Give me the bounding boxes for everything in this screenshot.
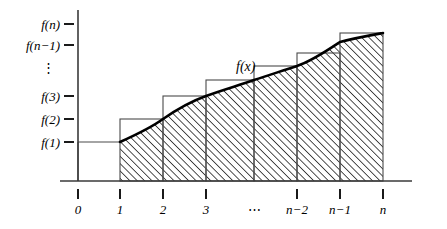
y-axis-vertical-ellipsis: ⋮ xyxy=(15,60,55,76)
x-axis-ticks xyxy=(78,189,383,199)
y-axis-label-f1: f(1) xyxy=(41,136,60,149)
y-axis-label-fn-minus-1: f(n−1) xyxy=(26,39,60,52)
x-axis-label-n-minus-1: n−1 xyxy=(329,203,351,216)
x-axis-label-n-minus-2: n−2 xyxy=(286,203,308,216)
integral-test-figure: f(n) f(n−1) ⋮ f(3) f(2) f(1) 0 1 2 3 ⋯ n… xyxy=(0,0,447,229)
y-axis-ticks xyxy=(64,24,74,142)
x-axis-label-0: 0 xyxy=(75,203,82,216)
hatched-area-under-curve xyxy=(118,28,386,183)
function-curve-label: f(x) xyxy=(236,59,255,75)
y-axis-label-fn: f(n) xyxy=(41,18,60,31)
x-axis-label-3: 3 xyxy=(203,203,210,216)
x-axis-horizontal-ellipsis: ⋯ xyxy=(234,202,274,218)
diagram-canvas xyxy=(0,0,447,229)
x-axis-label-1: 1 xyxy=(117,203,124,216)
x-axis-label-n: n xyxy=(380,203,387,216)
x-axis-label-2: 2 xyxy=(160,203,167,216)
y-axis-label-f3: f(3) xyxy=(41,90,60,103)
y-axis-label-f2: f(2) xyxy=(41,113,60,126)
